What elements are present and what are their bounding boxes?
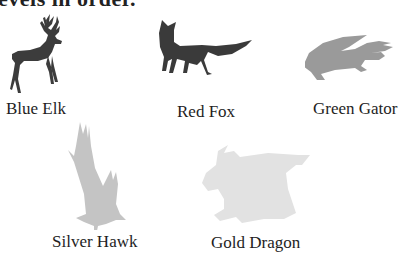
elk-silhouette-icon[interactable] bbox=[8, 8, 78, 96]
gator-silhouette-icon[interactable] bbox=[305, 33, 409, 93]
fox-silhouette-icon[interactable] bbox=[158, 20, 258, 88]
label-silver-hawk: Silver Hawk bbox=[52, 232, 137, 252]
label-red-fox: Red Fox bbox=[177, 102, 235, 122]
label-green-gator: Green Gator bbox=[313, 99, 398, 119]
label-blue-elk: Blue Elk bbox=[6, 99, 66, 119]
dragon-silhouette-icon[interactable] bbox=[198, 145, 320, 230]
label-gold-dragon: Gold Dragon bbox=[211, 233, 300, 253]
hawk-silhouette-icon[interactable] bbox=[62, 122, 134, 230]
